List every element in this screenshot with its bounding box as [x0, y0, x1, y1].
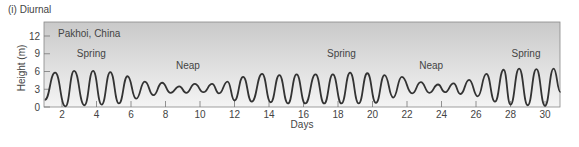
x-tick-label: 2	[59, 109, 65, 120]
x-tick-label: 8	[163, 109, 169, 120]
chart-title: Pakhoi, China	[58, 28, 121, 39]
x-tick-label: 26	[470, 109, 482, 120]
x-axis-label: Days	[291, 119, 314, 130]
x-tick-label: 28	[505, 109, 517, 120]
x-tick-label: 14	[263, 109, 275, 120]
x-tick-label: 4	[94, 109, 100, 120]
x-tick-label: 18	[332, 109, 344, 120]
annotation-label: Spring	[512, 48, 541, 59]
y-tick-label: 3	[34, 84, 40, 95]
x-tick-label: 20	[367, 109, 379, 120]
x-tick-label: 6	[128, 109, 134, 120]
annotation-label: Spring	[327, 48, 356, 59]
y-axis-label: Height (m)	[16, 45, 27, 92]
y-tick-label: 6	[34, 66, 40, 77]
annotation-label: Neap	[419, 60, 443, 71]
annotation-label: Spring	[77, 48, 106, 59]
y-tick-label: 0	[34, 102, 40, 113]
x-tick-label: 24	[436, 109, 448, 120]
x-tick-label: 22	[401, 109, 413, 120]
annotation-label: Neap	[176, 60, 200, 71]
y-tick-label: 12	[29, 31, 41, 42]
y-tick-label: 9	[34, 48, 40, 59]
x-tick-label: 12	[229, 109, 241, 120]
x-tick-label: 30	[539, 109, 551, 120]
panel-label: (i) Diurnal	[8, 4, 51, 15]
tide-chart: (i) Diurnal 036912 246810121416182022242…	[0, 0, 579, 147]
x-tick-label: 10	[194, 109, 206, 120]
